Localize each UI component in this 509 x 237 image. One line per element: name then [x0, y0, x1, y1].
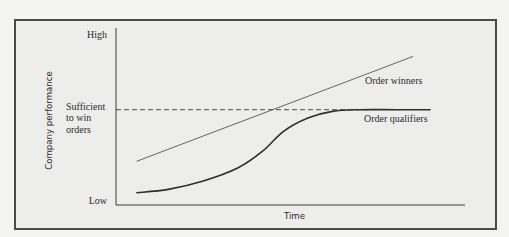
chart: HighSufficientto winordersLow Company pe… — [0, 0, 509, 237]
x-axis-label: Time — [283, 211, 305, 221]
y-axis-label: Company performance — [44, 71, 54, 170]
y-tick-label-threshold: Sufficientto winorders — [66, 101, 105, 135]
series-labels: Order winnersOrder qualifiers — [364, 75, 428, 124]
y-tick-label-line: to win — [66, 112, 91, 123]
y-tick-label-high: High — [87, 29, 107, 40]
y-tick-label-line: Sufficient — [66, 101, 105, 112]
y-tick-label-line: orders — [66, 124, 91, 135]
y-tick-label-low: Low — [89, 195, 108, 206]
series-label-order-winners: Order winners — [365, 75, 423, 86]
series-label-order-qualifiers: Order qualifiers — [364, 113, 428, 124]
y-tick-labels: HighSufficientto winordersLow — [66, 29, 108, 206]
